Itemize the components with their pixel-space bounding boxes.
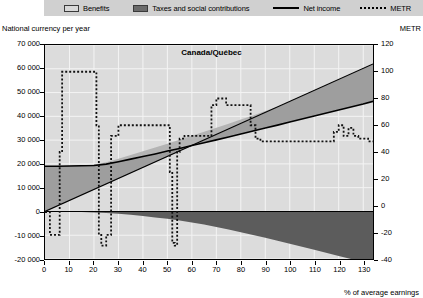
- y-axis-right-tick-mark: [374, 152, 378, 153]
- taxes-swatch-icon: [133, 5, 148, 12]
- benefits-swatch-icon: [64, 5, 79, 12]
- legend-item-taxes: Taxes and social contributions: [133, 0, 249, 16]
- y-axis-right-tick-mark: [374, 260, 378, 261]
- x-axis-tick-mark: [216, 261, 217, 265]
- y-axis-left-tick-mark: [40, 212, 44, 213]
- x-axis-tick-mark: [44, 261, 45, 265]
- x-axis-tick-mark: [167, 261, 168, 265]
- x-axis-tick-mark: [241, 261, 242, 265]
- plot-svg: [45, 45, 373, 259]
- y-axis-right-tick-label: 20: [381, 174, 415, 183]
- x-axis-tick-mark: [118, 261, 119, 265]
- y-axis-right-tick-label: -20: [381, 228, 415, 237]
- y-axis-right-tick-label: 80: [381, 93, 415, 102]
- y-axis-left-tick-label: -10 000: [0, 231, 40, 240]
- chart-figure: Benefits Taxes and social contributions …: [0, 0, 423, 298]
- y-axis-left-tick-mark: [40, 92, 44, 93]
- chart-legend: Benefits Taxes and social contributions …: [44, 0, 423, 16]
- y-axis-left-tick-mark: [40, 188, 44, 189]
- x-axis-tick-mark: [340, 261, 341, 265]
- legend-item-net-income: Net income: [273, 0, 340, 16]
- y-axis-right-tick-mark: [374, 179, 378, 180]
- chart-title: Canada/Québec: [0, 48, 423, 57]
- y-axis-left-tick-mark: [40, 140, 44, 141]
- x-axis-tick-mark: [69, 261, 70, 265]
- y-axis-right-tick-label: 120: [381, 39, 415, 48]
- legend-item-metr: METR: [360, 0, 411, 16]
- x-axis-tick-mark: [315, 261, 316, 265]
- y-axis-left-tick-mark: [40, 44, 44, 45]
- y-axis-left-tick-label: 10 000: [0, 183, 40, 192]
- legend-label-benefits: Benefits: [83, 4, 109, 13]
- x-axis-tick-mark: [290, 261, 291, 265]
- y-axis-left-tick-label: 40 000: [0, 111, 40, 120]
- y-axis-right-tick-mark: [374, 125, 378, 126]
- y-axis-left-tick-label: -20 000: [0, 255, 40, 264]
- y-axis-right-tick-label: -40: [381, 255, 415, 264]
- x-axis-tick-mark: [93, 261, 94, 265]
- legend-item-benefits: Benefits: [64, 0, 109, 16]
- y-axis-right-tick-label: 0: [381, 201, 415, 210]
- legend-label-taxes: Taxes and social contributions: [152, 4, 249, 13]
- y-axis-right-title: METR: [400, 24, 421, 33]
- y-axis-left-tick-mark: [40, 236, 44, 237]
- y-axis-right-tick-mark: [374, 44, 378, 45]
- y-axis-left-tick-label: 50 000: [0, 87, 40, 96]
- y-axis-left-tick-label: 70 000: [0, 39, 40, 48]
- y-axis-left-tick-mark: [40, 164, 44, 165]
- x-axis-title: % of average earnings: [344, 288, 419, 297]
- y-axis-left-tick-label: 60 000: [0, 63, 40, 72]
- x-axis-tick-mark: [143, 261, 144, 265]
- net-income-line-icon: [273, 7, 299, 9]
- y-axis-left-tick-mark: [40, 116, 44, 117]
- y-axis-right-tick-mark: [374, 98, 378, 99]
- y-axis-right-tick-label: 60: [381, 120, 415, 129]
- y-axis-left-tick-label: 0: [0, 207, 40, 216]
- legend-label-net-income: Net income: [303, 4, 340, 13]
- x-axis-tick-mark: [364, 261, 365, 265]
- legend-label-metr: METR: [390, 4, 411, 13]
- y-axis-right-tick-label: 100: [381, 66, 415, 75]
- y-axis-right-tick-mark: [374, 233, 378, 234]
- y-axis-right-tick-label: 40: [381, 147, 415, 156]
- y-axis-right-tick-mark: [374, 206, 378, 207]
- y-axis-left-tick-label: 30 000: [0, 135, 40, 144]
- x-axis-tick-mark: [266, 261, 267, 265]
- y-axis-right-tick-mark: [374, 71, 378, 72]
- plot-area: [44, 44, 374, 260]
- y-axis-left-tick-mark: [40, 68, 44, 69]
- x-axis-tick-mark: [192, 261, 193, 265]
- y-axis-left-title: National currency per year: [2, 24, 90, 33]
- y-axis-left-tick-label: 20 000: [0, 159, 40, 168]
- x-axis-tick-label: 130: [350, 265, 378, 274]
- metr-line-icon: [360, 7, 386, 9]
